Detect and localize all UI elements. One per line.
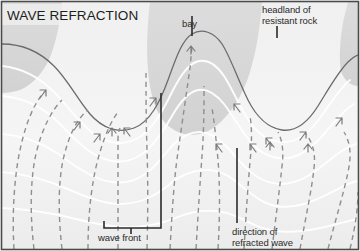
wave-refraction-diagram: WAVE REFRACTION bay headland ofresistant… — [0, 0, 360, 251]
bay-label: bay — [182, 19, 197, 30]
diagram-canvas — [0, 0, 360, 251]
headland-label-line2: resistant rock — [262, 15, 317, 26]
headland-label: headland ofresistant rock — [262, 5, 317, 26]
refracted-wave-label-line1: direction of — [232, 226, 277, 237]
wave-front-label: wave front — [98, 233, 141, 244]
headland-label-line1: headland of — [262, 4, 311, 15]
refracted-wave-label: direction ofrefracted wave — [232, 227, 293, 248]
refracted-wave-label-line2: refracted wave — [232, 237, 293, 248]
page-title: WAVE REFRACTION — [7, 8, 138, 23]
